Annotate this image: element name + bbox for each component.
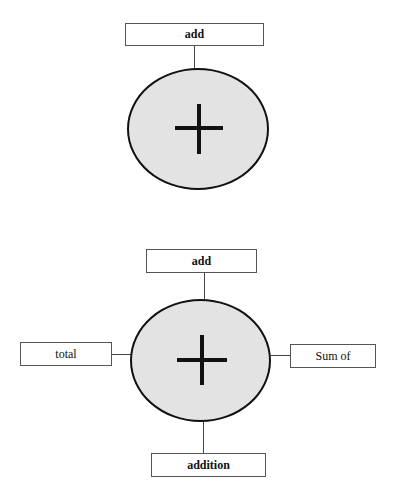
concept-ellipse-2 [130,299,271,422]
connector-line-top [204,273,205,299]
connector-line [194,46,195,68]
connector-line-right [270,355,290,356]
connector-line-bottom [203,422,204,453]
label-total: total [20,342,112,366]
connector-line-left [112,354,131,355]
concept-ellipse-1 [127,68,269,190]
label-sum-of: Sum of [290,344,376,368]
label-add-top-1: add [125,23,264,46]
label-add-top-2: add [146,249,257,273]
label-addition: addition [151,453,266,477]
